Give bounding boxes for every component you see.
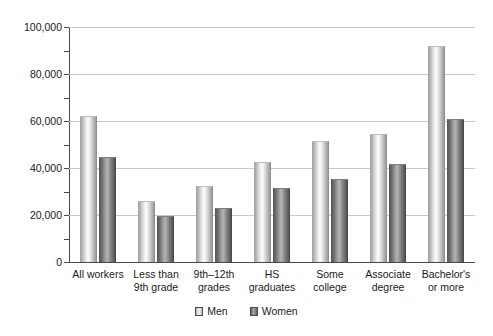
legend-label: Men <box>207 306 227 317</box>
bar-men-3 <box>254 162 271 262</box>
y-axis-tick-label: 60,000 <box>4 116 62 126</box>
bar-women-5 <box>389 164 406 262</box>
plot-area <box>69 27 475 262</box>
gridline <box>69 215 475 216</box>
y-axis-tick-label: 40,000 <box>4 163 62 173</box>
legend-label: Women <box>262 306 298 317</box>
axis-baseline <box>69 262 475 263</box>
chart-legend: MenWomen <box>0 306 493 317</box>
x-axis-category-label: Bachelor's or more <box>411 268 481 293</box>
bar-men-2 <box>196 186 213 262</box>
bar-men-5 <box>370 134 387 262</box>
y-axis-tick-label: 80,000 <box>4 69 62 79</box>
bar-men-0 <box>80 116 97 262</box>
gridline <box>69 27 475 28</box>
y-axis-tick-label: 100,000 <box>4 22 62 32</box>
y-axis-tick-label: 0 <box>4 257 62 267</box>
legend-item-men[interactable]: Men <box>195 306 227 317</box>
bar-women-0 <box>99 157 116 262</box>
bar-women-6 <box>447 119 464 262</box>
gridline <box>69 168 475 169</box>
gridline <box>69 121 475 122</box>
bar-women-3 <box>273 188 290 262</box>
bar-men-1 <box>138 201 155 262</box>
bar-women-1 <box>157 216 174 262</box>
men-swatch-icon <box>195 307 203 316</box>
bar-women-2 <box>215 208 232 262</box>
bar-women-4 <box>331 179 348 262</box>
bar-chart: 020,00040,00060,00080,000100,000 All wor… <box>0 0 493 336</box>
y-axis-labels: 020,00040,00060,00080,000100,000 <box>0 0 62 336</box>
y-axis-tick-label: 20,000 <box>4 210 62 220</box>
bar-men-4 <box>312 141 329 262</box>
legend-item-women[interactable]: Women <box>250 306 298 317</box>
women-swatch-icon <box>250 307 258 316</box>
bar-men-6 <box>428 46 445 262</box>
gridline <box>69 74 475 75</box>
